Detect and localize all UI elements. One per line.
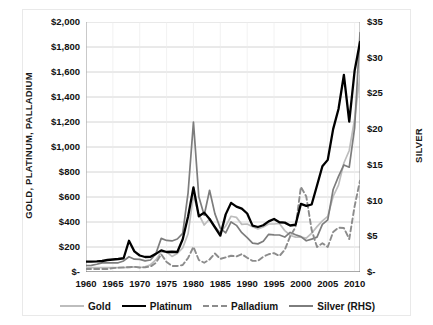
right-tick-label: $25 [367, 87, 417, 98]
legend-label: Gold [88, 301, 111, 312]
left-tick-label: $400 [30, 216, 80, 227]
series-canvas [86, 22, 360, 272]
left-tick-label: $800 [30, 166, 80, 177]
x-tick-label: 2010 [335, 278, 375, 289]
legend-item-platinum[interactable]: Platinum [122, 301, 192, 312]
chart-legend: GoldPlatinumPalladiumSilver (RHS) [30, 296, 405, 316]
left-tick-label: $- [30, 266, 80, 277]
legend-swatch-icon [289, 305, 313, 307]
legend-item-palladium[interactable]: Palladium [203, 301, 278, 312]
right-tick-label: $- [367, 266, 417, 277]
legend-swatch-icon [203, 305, 227, 307]
legend-swatch-icon [60, 305, 84, 307]
legend-label: Silver (RHS) [317, 301, 375, 312]
left-tick-label: $1,400 [30, 91, 80, 102]
right-tick-label: $15 [367, 159, 417, 170]
legend-label: Platinum [150, 301, 192, 312]
left-tick-label: $1,200 [30, 116, 80, 127]
legend-label: Palladium [231, 301, 278, 312]
legend-item-silver-rhs[interactable]: Silver (RHS) [289, 301, 375, 312]
right-axis-title: SILVER [413, 46, 424, 246]
left-tick-label: $2,000 [30, 16, 80, 27]
left-tick-label: $600 [30, 191, 80, 202]
right-tick-label: $5 [367, 230, 417, 241]
series-line-gold [86, 76, 360, 268]
right-tick-label: $30 [367, 52, 417, 63]
precious-metals-price-chart: GOLD, PLATINUM, PALLADIUM SILVER $-$200$… [0, 0, 433, 325]
legend-item-gold[interactable]: Gold [60, 301, 111, 312]
series-line-silver-rhs [86, 33, 360, 266]
right-tick-label: $10 [367, 195, 417, 206]
left-tick-label: $200 [30, 241, 80, 252]
right-tick-label: $20 [367, 123, 417, 134]
left-tick-label: $1,600 [30, 66, 80, 77]
left-tick-label: $1,000 [30, 141, 80, 152]
right-tick-label: $35 [367, 16, 417, 27]
plot-area [86, 22, 360, 272]
left-tick-label: $1,800 [30, 41, 80, 52]
legend-swatch-icon [122, 305, 146, 307]
series-line-platinum [86, 42, 360, 262]
